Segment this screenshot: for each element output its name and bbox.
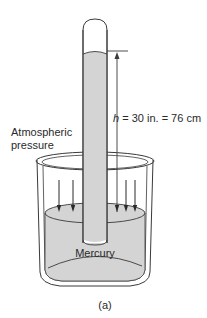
mercury-label: Mercury [75,247,115,259]
arrow-up-icon [115,52,120,59]
figure-caption: (a) [98,299,111,311]
barometer-diagram: h = 30 in. = 76 cm Atmospheric pressure … [0,0,207,318]
atmospheric-label-line1: Atmospheric [11,126,73,138]
glass-tube [83,19,107,245]
atmospheric-label-line2: pressure [11,139,54,151]
mercury-column [84,52,106,243]
height-label: h = 30 in. = 76 cm [113,112,201,124]
